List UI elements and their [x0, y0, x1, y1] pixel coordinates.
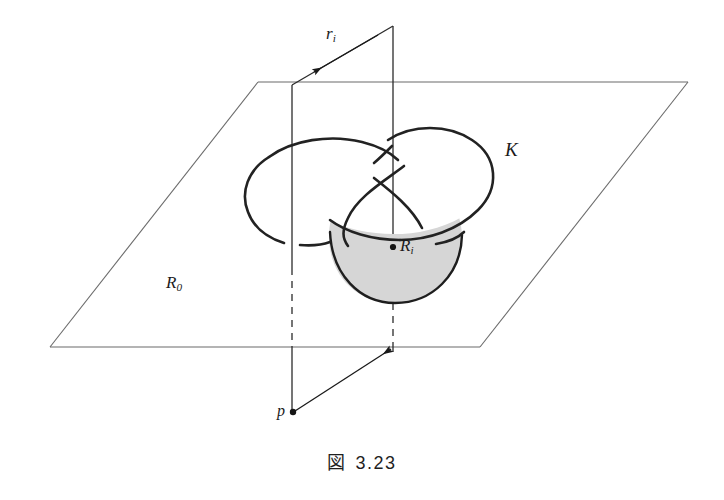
- label-knot-K: K: [505, 139, 518, 161]
- knot-arc-left-loop: [245, 157, 284, 243]
- label-disk-Ri: Ri: [400, 236, 414, 256]
- knot-arc-upper-left: [269, 138, 398, 160]
- knot-plane-diagram: [0, 0, 724, 500]
- figure-caption: 図3.23: [0, 448, 724, 474]
- label-Ri-base: R: [400, 236, 410, 255]
- label-plane-R0: R0: [166, 273, 182, 293]
- label-R0-base: R: [166, 273, 176, 292]
- label-ri-base: r: [326, 24, 333, 43]
- label-Ri-subscript: i: [410, 244, 413, 256]
- p-direction-arrow: [295, 349, 391, 411]
- plane-edge-right: [480, 82, 688, 347]
- label-point-p: p: [277, 402, 285, 420]
- r-i-pointer-arrow: [314, 35, 378, 72]
- horizontal-plane-R0: [50, 82, 688, 347]
- R-i-center-dot: [390, 244, 396, 250]
- label-R0-subscript: 0: [176, 281, 182, 293]
- figure-container: ri K Ri R0 p 図3.23: [0, 0, 724, 500]
- knot-arc-bottom-left-stub: [300, 242, 330, 245]
- label-vertical-plane-ri: ri: [326, 24, 336, 44]
- plane-edge-left: [50, 82, 258, 347]
- knot-arc-inner-right: [374, 178, 422, 228]
- caption-number: 3.23: [355, 453, 396, 473]
- label-ri-subscript: i: [333, 32, 336, 44]
- vertical-plane-ri: [292, 26, 393, 412]
- knot-arc-upper-right: [388, 128, 493, 240]
- point-p-dot: [290, 409, 296, 415]
- caption-marker: 図: [327, 453, 346, 473]
